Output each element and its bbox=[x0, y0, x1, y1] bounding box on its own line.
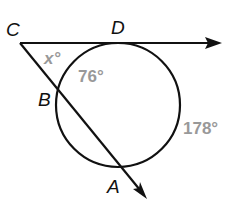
arc-178-label: 178° bbox=[183, 119, 218, 138]
secant-ray-CA bbox=[20, 43, 140, 190]
point-C-label: C bbox=[6, 19, 20, 40]
arc-76-label: 76° bbox=[78, 67, 104, 86]
point-A-label: A bbox=[106, 176, 120, 197]
circle bbox=[56, 43, 180, 167]
point-B-label: B bbox=[38, 89, 51, 110]
point-D-label: D bbox=[111, 17, 125, 38]
secant-tangent-diagram: C D B A x° 76° 178° bbox=[0, 0, 234, 203]
angle-x-label: x° bbox=[43, 49, 60, 68]
